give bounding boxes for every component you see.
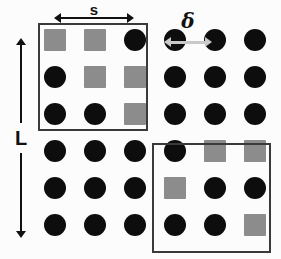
lattice-site-circle bbox=[124, 140, 146, 162]
delta-dimension-annotation: δ bbox=[164, 14, 212, 50]
lattice-site-circle bbox=[44, 177, 66, 199]
lattice-site-circle bbox=[124, 177, 146, 199]
lattice-site-circle bbox=[84, 177, 106, 199]
s-label: s bbox=[86, 2, 102, 17]
lattice-site-circle bbox=[244, 29, 266, 51]
l-arrow-down-head-icon bbox=[16, 231, 26, 238]
lattice-site-circle bbox=[204, 66, 226, 88]
lattice-site-circle bbox=[204, 103, 226, 125]
delta-arrow-right-head-icon bbox=[205, 37, 212, 47]
top-left-domain bbox=[38, 23, 148, 131]
delta-arrow-line bbox=[169, 41, 207, 44]
lattice-site-circle bbox=[84, 214, 106, 236]
lattice-site-circle bbox=[164, 103, 186, 125]
l-dimension-annotation: L bbox=[11, 38, 31, 238]
lattice-site-circle bbox=[84, 140, 106, 162]
s-arrow-right-head-icon bbox=[127, 13, 134, 23]
lattice-site-circle bbox=[44, 214, 66, 236]
lattice-site-circle bbox=[244, 66, 266, 88]
delta-label: δ bbox=[181, 10, 194, 32]
bottom-right-domain bbox=[152, 143, 271, 253]
s-dimension-annotation: s bbox=[54, 4, 134, 24]
lattice-figure: s δ L bbox=[0, 0, 281, 259]
lattice-site-circle bbox=[164, 66, 186, 88]
lattice-site-circle bbox=[244, 103, 266, 125]
lattice-site-circle bbox=[44, 140, 66, 162]
lattice-site-circle bbox=[124, 214, 146, 236]
l-label: L bbox=[12, 123, 30, 153]
